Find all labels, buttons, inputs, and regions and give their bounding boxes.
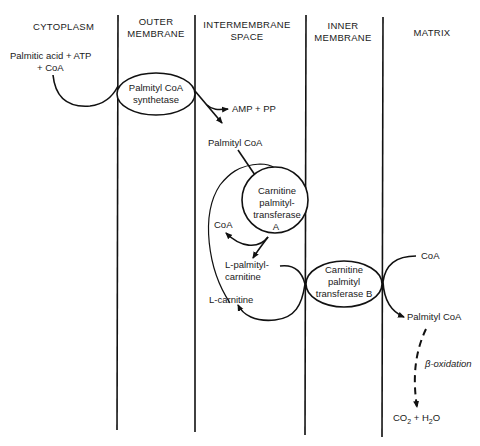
cpt-a-label-4: A (273, 221, 280, 232)
synthetase-label-2: synthetase (133, 94, 179, 105)
inner-membrane-right-line (382, 17, 383, 437)
cpt-a-to-coa-arrow (226, 233, 268, 245)
l-palmityl-carnitine-label-2: carnitine (225, 271, 261, 282)
cpt-b-label-2: palmityl (328, 276, 360, 287)
beta-oxidation-label: β-oxidation (424, 358, 472, 369)
co2-h2o-label: CO2 + H2O (393, 412, 440, 425)
header-inner-membrane-1: INNER (327, 20, 358, 31)
header-matrix: MATRIX (414, 27, 451, 38)
header-outer-membrane-1: OUTER (139, 16, 174, 27)
reactant-line-2: + CoA (37, 62, 64, 73)
cpt-b-label-1: Carnitine (325, 264, 363, 275)
reactant-curve (53, 75, 118, 106)
l-palmityl-carnitine-to-cpt-b-curve (280, 266, 305, 284)
cpt-a-label-3: transferase (253, 209, 301, 220)
cpt-a-label-2: palmityl- (259, 197, 294, 208)
outer-membrane-left-line (117, 15, 118, 430)
header-outer-membrane-2: MEMBRANE (127, 28, 184, 39)
palmityl-coa-matrix-label: Palmityl CoA (407, 311, 462, 322)
palmityl-coa-ims-label: Palmityl CoA (208, 137, 263, 148)
coa-ims-label: CoA (214, 219, 233, 230)
header-intermembrane-2: SPACE (230, 31, 263, 42)
amp-pp-label: AMP + PP (232, 103, 276, 114)
header-inner-membrane-2: MEMBRANE (314, 32, 371, 43)
cpt-b-label-3: transferase B (316, 288, 373, 299)
cpt-a-to-l-palmityl-carnitine-arrow (253, 237, 268, 258)
coa-to-cpt-b-curve (383, 256, 416, 282)
fatty-acid-transport-diagram: CYTOPLASM OUTER MEMBRANE INTERMEMBRANE S… (0, 0, 480, 446)
header-intermembrane-1: INTERMEMBRANE (203, 19, 290, 30)
reactant-line-1: Palmitic acid + ATP (10, 50, 91, 61)
l-carnitine-label: L-carnitine (209, 294, 253, 305)
coa-matrix-label: CoA (421, 250, 440, 261)
header-cytoplasm: CYTOPLASM (33, 21, 94, 32)
cpt-b-to-palmityl-coa-arrow (383, 282, 404, 317)
synthetase-label-1: Palmityl CoA (129, 82, 184, 93)
cpt-a-label-1: Carnitine (258, 185, 296, 196)
inner-membrane-left-line (305, 15, 306, 435)
l-palmityl-carnitine-label-1: L-palmityl- (225, 259, 269, 270)
